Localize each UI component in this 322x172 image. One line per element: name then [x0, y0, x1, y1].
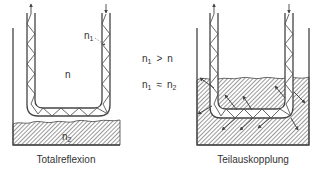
light-ray-zigzag: [27, 14, 110, 116]
condition-n1-greater-n: n1>n: [142, 53, 173, 65]
label-n-core: n: [65, 69, 71, 80]
left-panel-totalreflexion: n1 n n2 Totalreflexion: [13, 4, 120, 165]
conditions: n1>n n1≈n2: [142, 53, 177, 91]
right-panel-teilauskopplung: Teilauskopplung: [197, 4, 309, 165]
caption-teilauskopplung: Teilauskopplung: [217, 154, 289, 165]
label-n1: n1: [84, 30, 94, 42]
fiber-optic-diagram: n1 n n2 Totalreflexion n1>n n1≈n2: [0, 0, 322, 172]
fiber-cladding-outer: [27, 13, 110, 116]
caption-totalreflexion: Totalreflexion: [37, 154, 96, 165]
condition-n1-approx-n2: n1≈n2: [142, 79, 177, 91]
fiber-core-inner: [35, 13, 102, 108]
